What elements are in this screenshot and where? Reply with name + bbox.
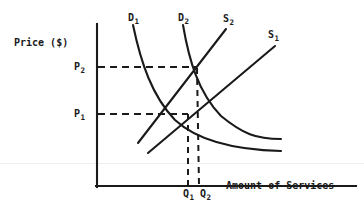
curve-label-d2: D2 [178,13,189,23]
curve-demand-1 [133,25,281,151]
price-label-p2-text: P [74,61,80,72]
price-label-p1-text: P [74,108,80,119]
quantity-label-q1: Q1 [183,189,194,199]
curve-label-s2: S2 [223,14,234,24]
curve-label-s1: S1 [268,30,279,40]
curve-label-s2-text: S [223,13,229,24]
curve-label-d1-sub: 1 [135,17,140,26]
price-label-p2: P2 [74,62,85,72]
x-axis-title: Amount of Services [226,181,334,191]
curve-label-d1-text: D [128,12,134,23]
price-label-p1-sub: 1 [81,113,86,122]
quantity-label-q2-text: Q [200,188,206,199]
quantity-label-q1-sub: 1 [190,193,195,202]
price-label-p1: P1 [74,109,85,119]
y-axis-title: Price ($) [14,38,68,48]
quantity-label-q1-text: Q [183,188,189,199]
curve-label-d1: D1 [128,13,139,23]
quantity-label-q2: Q2 [200,189,211,199]
curve-label-d2-text: D [178,12,184,23]
guideline-quantity-2 [197,68,199,185]
curve-label-s1-sub: 1 [275,34,280,43]
curve-label-s1-text: S [268,29,274,40]
price-label-p2-sub: 2 [81,66,86,75]
figure-canvas: Price ($) Amount of Services P2 P1 Q1 Q2… [0,0,364,215]
curve-label-d2-sub: 2 [185,17,190,26]
curve-label-s2-sub: 2 [230,18,235,27]
quantity-label-q2-sub: 2 [207,193,212,202]
